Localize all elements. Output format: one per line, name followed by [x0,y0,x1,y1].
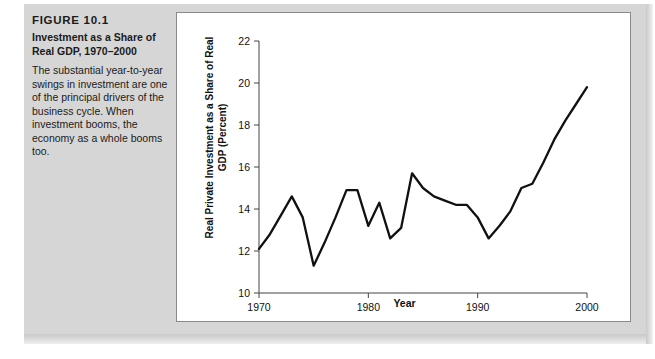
x-axis-label: Year [177,297,632,309]
figure-title: Investment as a Share of Real GDP, 1970–… [32,31,172,58]
y-tick-label: 18 [238,119,250,131]
data-series-line [259,87,587,266]
figure-root: FIGURE 10.1 Investment as a Share of Rea… [0,0,655,359]
y-axis-label: Real Private Investment as a Share of Re… [204,33,229,243]
y-tick-label: 12 [238,245,250,257]
figure-description: The substantial year-to-year swings in i… [32,64,172,159]
chart-inner: Real Private Investment as a Share of Re… [177,13,632,323]
y-axis-ticks: 10121416182022 [238,35,259,299]
y-tick-label: 14 [238,203,250,215]
figure-caption: FIGURE 10.1 Investment as a Share of Rea… [32,14,172,159]
chart-container: Real Private Investment as a Share of Re… [176,12,631,322]
y-tick-label: 20 [238,77,250,89]
y-tick-label: 16 [238,161,250,173]
panel-shadow-bottom [24,334,646,344]
panel-shadow-right [646,4,653,344]
figure-number: FIGURE 10.1 [32,14,172,26]
y-tick-label: 22 [238,35,250,47]
line-chart-plot: 10121416182022 1970198019902000 [177,13,632,323]
